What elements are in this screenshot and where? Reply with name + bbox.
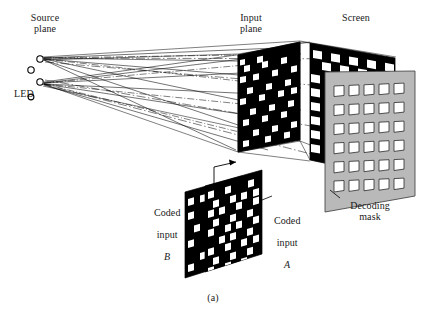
led-circle-2: [28, 67, 34, 73]
label-input-plane: Input plane: [222, 12, 280, 34]
label-coded-input-b: Coded input B: [138, 196, 186, 273]
label-source-plane: Source plane: [14, 12, 76, 34]
led-circle-3: [37, 79, 43, 85]
diagram-canvas: [0, 0, 426, 320]
label-led: LED: [14, 88, 54, 99]
optical-correlator-figure: Source plane LED Input plane Screen Code…: [0, 0, 426, 320]
label-screen: Screen: [330, 12, 382, 23]
label-coded-input-a-line1: Coded: [274, 215, 301, 226]
decoding-mask-panel: [325, 71, 415, 212]
coded-input-a-leader: [262, 196, 272, 200]
led-circle-1: [37, 56, 43, 62]
label-coded-input-b-line2: input: [157, 229, 178, 240]
figure-caption: (a): [183, 292, 243, 303]
input-plane-panel: [238, 42, 300, 152]
label-coded-input-a-line2: input: [277, 237, 298, 248]
label-decoding-mask: Decoding mask: [338, 200, 402, 222]
label-coded-input-b-letter: B: [164, 251, 170, 262]
label-coded-input-b-line1: Coded: [154, 207, 181, 218]
label-coded-input-a-letter: A: [284, 259, 290, 270]
label-coded-input-a: Coded input A: [258, 204, 306, 281]
